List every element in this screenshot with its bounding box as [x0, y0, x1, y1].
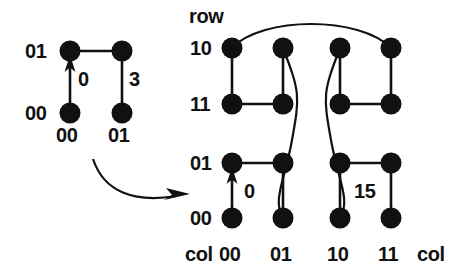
right-node-r00-c10 — [330, 208, 351, 229]
left-edge-label-0: 0 — [78, 69, 89, 89]
left-node-r01-c01 — [112, 41, 133, 62]
left-row-label-01: 01 — [25, 41, 46, 61]
right-edge-arc-top-c00-c11 — [232, 24, 391, 48]
transform-arrow — [93, 159, 190, 200]
right-node-r10-c10 — [330, 38, 351, 59]
right-axis-title-row: row — [189, 6, 223, 26]
right-col-label-11: 11 — [378, 244, 398, 264]
left-col-label-00: 00 — [56, 125, 77, 145]
right-axis-title-col-left: col — [185, 244, 213, 264]
left-node-r01-c00 — [60, 41, 81, 62]
right-node-r11-c11 — [381, 94, 402, 115]
right-col-label-00: 00 — [219, 244, 240, 264]
right-edge-label-15: 15 — [354, 181, 375, 201]
right-row-label-10: 10 — [190, 38, 211, 58]
transform-arrow-curve — [93, 159, 176, 198]
right-row-label-00: 00 — [190, 208, 211, 228]
right-node-r00-c11 — [381, 208, 402, 229]
right-node-r00-c00 — [222, 208, 243, 229]
left-col-label-01: 01 — [108, 125, 129, 145]
left-node-r00-c00 — [60, 103, 81, 124]
right-node-r00-c01 — [273, 208, 294, 229]
transform-arrowhead-icon — [164, 188, 190, 200]
right-node-r01-c10 — [330, 153, 351, 174]
right-node-r01-c01 — [273, 153, 294, 174]
right-node-r10-c11 — [381, 38, 402, 59]
right-node-r11-c10 — [330, 94, 351, 115]
right-node-r11-c00 — [222, 94, 243, 115]
right-col-label-01: 01 — [270, 244, 291, 264]
left-node-r00-c01 — [112, 103, 133, 124]
right-node-r01-c00 — [222, 153, 243, 174]
right-edge-curve-c01-r10-r00 — [279, 48, 297, 218]
right-col-label-10: 10 — [327, 244, 348, 264]
figure-canvas: 01 00 00 01 0 3 row 10 11 01 00 col 00 0… — [0, 0, 466, 278]
right-row-label-11: 11 — [190, 94, 210, 114]
right-node-r10-c01 — [273, 38, 294, 59]
right-edge-curve-c10-r10-r00 — [326, 48, 344, 218]
left-edge-label-3: 3 — [129, 69, 140, 89]
right-node-r01-c11 — [381, 153, 402, 174]
left-row-label-00: 00 — [25, 103, 46, 123]
left-graph — [60, 41, 133, 124]
right-row-label-01: 01 — [190, 153, 211, 173]
right-node-r11-c01 — [273, 94, 294, 115]
right-edge-label-0: 0 — [244, 181, 255, 201]
right-node-r10-c00 — [222, 38, 243, 59]
right-axis-title-col-right: col — [417, 244, 445, 264]
